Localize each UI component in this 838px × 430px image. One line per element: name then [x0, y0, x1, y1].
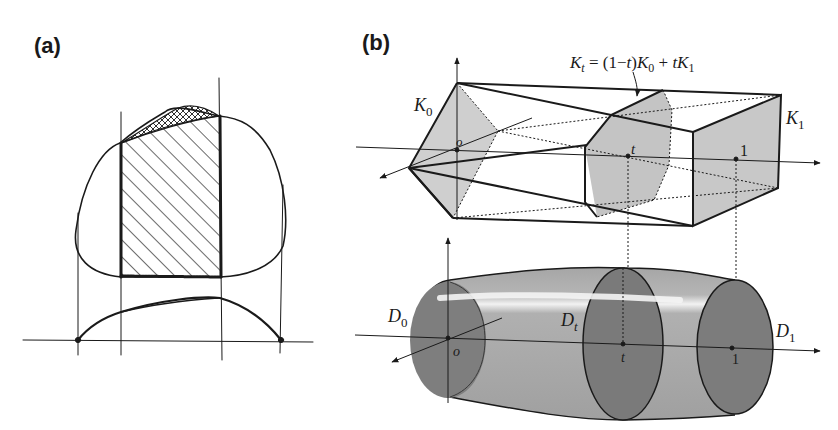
upper-graph-curve	[78, 298, 281, 340]
panel-a-sketch	[23, 78, 313, 360]
point-left	[75, 337, 80, 342]
label-one-bottom: 1	[732, 352, 739, 367]
hatched-region	[121, 116, 220, 277]
formula-pointer	[633, 72, 637, 96]
origin-point-bottom	[446, 336, 450, 340]
label-k0: K0	[413, 95, 433, 119]
interpolation-formula: Kt = (1−t)K0 + tK1	[569, 53, 694, 75]
label-one-top: 1	[740, 142, 748, 159]
panel-b-disk-interpolation	[355, 238, 820, 420]
figure-canvas: Kt = (1−t)K0 + tK1 K0 K1 o t 1 D0 Dt D1 …	[0, 0, 838, 430]
t-point	[626, 154, 630, 158]
one-point	[734, 157, 738, 161]
label-d1: D1	[775, 321, 796, 345]
label-d0: D0	[387, 306, 408, 330]
rect-right-edge	[220, 116, 221, 277]
rect-bottom-edge	[121, 276, 221, 277]
guide-line-right-outer	[280, 185, 283, 353]
point-right	[278, 337, 283, 342]
t-point-bottom	[621, 342, 625, 346]
one-point-bottom	[730, 346, 734, 350]
label-k1: K1	[785, 108, 805, 132]
label-origin-bottom: o	[453, 344, 460, 359]
baseline	[23, 340, 313, 342]
label-origin-top: o	[456, 134, 463, 149]
